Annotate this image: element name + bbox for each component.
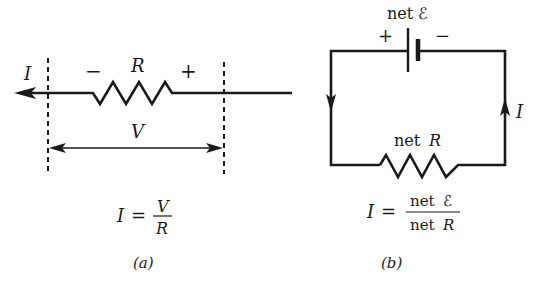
- voltage-label: V: [131, 121, 146, 142]
- formula-b-denominator-symbol: R: [442, 216, 454, 234]
- battery-minus-sign: −: [435, 25, 450, 46]
- panel-b: net ℰ + − net R I I = net ℰ net R (b): [326, 4, 524, 272]
- net-resistor-label: net R: [394, 131, 441, 150]
- formula-numerator: V: [157, 197, 170, 216]
- plus-sign: +: [180, 59, 197, 83]
- net-resistor-symbol: R: [428, 131, 441, 150]
- battery-plus-sign: +: [378, 25, 393, 46]
- battery-label-text: net ℰ: [387, 4, 428, 23]
- formula-b-denominator-prefix: net: [410, 216, 435, 234]
- current-label-b: I: [515, 101, 524, 122]
- battery-label: net ℰ: [387, 4, 428, 23]
- ohms-law-formula: I = V R: [116, 197, 172, 238]
- formula-lhs: I: [116, 205, 125, 226]
- net-resistor-prefix: net: [394, 131, 421, 150]
- resistor-wire: [30, 82, 292, 104]
- circuit-loop: [331, 51, 505, 177]
- formula-equals: =: [131, 205, 146, 226]
- net-ohms-law-formula: I = net ℰ net R: [366, 192, 460, 234]
- formula-b-lhs: I: [366, 201, 375, 222]
- circuit-figure: I − R + V I = V R (a): [0, 0, 537, 287]
- panel-a: I − R + V I = V R (a): [14, 55, 292, 272]
- resistor-label: R: [130, 55, 145, 76]
- caption-b: (b): [381, 254, 402, 272]
- formula-denominator: R: [155, 219, 168, 238]
- current-label: I: [23, 63, 32, 84]
- caption-a: (a): [133, 254, 154, 272]
- formula-b-numerator-prefix: net: [410, 192, 435, 210]
- minus-sign: −: [85, 59, 102, 83]
- formula-b-numerator-symbol: ℰ: [443, 192, 452, 210]
- formula-b-equals: =: [381, 201, 396, 222]
